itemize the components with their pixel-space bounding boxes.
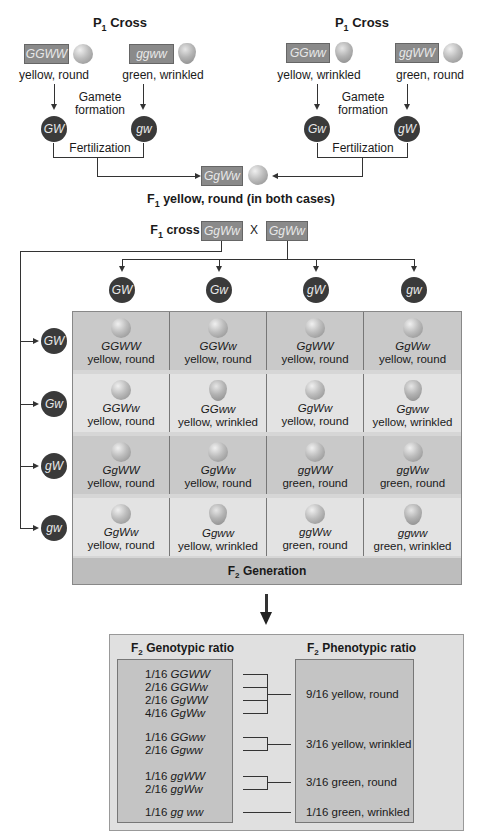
- phenotypic-ratio-title: F2 Phenotypic ratio: [307, 641, 416, 657]
- genotypic-ratio-item: 2/16 Ggww: [145, 744, 203, 757]
- p1-cross-right-title: P1 Cross: [322, 15, 402, 33]
- round-pea-icon: [111, 380, 131, 400]
- cell-phenotype: yellow, round: [379, 353, 446, 366]
- phenotypic-ratio-item: 9/16 yellow, round: [306, 688, 399, 701]
- parent-genotype-box: GGww: [286, 43, 330, 63]
- phenotypic-ratio-item: 3/16 yellow, wrinkled: [306, 738, 411, 751]
- p1-cross-left-title: P1 Cross: [80, 15, 160, 33]
- genotypic-ratio-item: 1/16 gg ww: [145, 806, 203, 819]
- round-pea-icon: [403, 318, 423, 338]
- punnett-cell: GGWwyellow, round: [170, 312, 267, 370]
- punnett-cell: ggWWgreen, round: [267, 436, 364, 494]
- fraction: 2/16: [145, 744, 167, 756]
- cell-phenotype: green, wrinkled: [374, 540, 452, 553]
- punnett-cell: GGWWyellow, round: [73, 312, 170, 370]
- gamete-circle: gW: [394, 116, 420, 142]
- title-p: P: [93, 15, 102, 30]
- punnett-row: GGWwyellow, round GGwwyellow, wrinkled G…: [73, 374, 461, 432]
- punnett-cell: ggwwgreen, wrinkled: [364, 498, 461, 556]
- parent-genotype-box: GGWW: [24, 44, 69, 64]
- connector-line: [20, 251, 21, 529]
- connector-line: [53, 157, 144, 158]
- cell-genotype: GgWW: [296, 340, 333, 353]
- gamete-circle: Gw: [304, 116, 330, 142]
- genotypic-ratio-item: 1/16 ggWW: [145, 770, 205, 783]
- punnett-cell: GgWwyellow, round: [364, 312, 461, 370]
- connector-line: [97, 157, 98, 176]
- arrow-right-icon: [33, 338, 39, 344]
- bracket-line: [267, 744, 291, 745]
- row-gamete-circle: GW: [41, 328, 67, 354]
- connector-line: [20, 528, 34, 529]
- wrinkled-pea-icon: [404, 380, 422, 401]
- arrow-right-icon: [33, 525, 39, 531]
- cell-phenotype: yellow, round: [281, 415, 348, 428]
- wrinkled-pea-icon: [335, 42, 353, 63]
- bracket-line: [243, 687, 267, 688]
- f1-cross-label: F1 cross: [150, 223, 200, 240]
- title-rest: Cross: [107, 15, 147, 30]
- punnett-cell: GgWwyellow, round: [170, 436, 267, 494]
- parent-phenotype: green, wrinkled: [120, 68, 206, 82]
- column-gamete-circle: gw: [401, 277, 427, 303]
- f1-cross-rest: cross: [163, 223, 200, 237]
- genotypic-ratio-item: 1/16 GGww: [145, 731, 205, 744]
- connector-line: [278, 176, 363, 177]
- connector-line: [97, 176, 197, 177]
- big-arrow-shaft: [265, 594, 268, 614]
- round-pea-icon: [73, 44, 93, 64]
- row-gamete-circle: Gw: [41, 391, 67, 417]
- connector-line: [407, 143, 408, 157]
- connector-line: [20, 251, 222, 252]
- cell-phenotype: yellow, round: [87, 477, 154, 490]
- fraction: 1/16: [145, 770, 167, 782]
- f1-cross-parent-box: GgWw: [266, 221, 308, 241]
- cell-genotype: ggWW: [298, 464, 333, 477]
- cell-genotype: Ggww: [397, 403, 429, 416]
- round-pea-icon: [111, 318, 131, 338]
- arrow-down-icon: [51, 104, 57, 110]
- cell-phenotype: yellow, wrinkled: [373, 416, 453, 429]
- cell-genotype: ggWw: [299, 526, 331, 539]
- genotype: ggWW: [171, 770, 206, 782]
- punnett-cell: ggWwgreen, round: [364, 436, 461, 494]
- fraction: 4/16: [145, 707, 167, 719]
- fraction: 1/16: [145, 731, 167, 743]
- punnett-cell: GgWWyellow, round: [73, 436, 170, 494]
- connector-line: [143, 143, 144, 157]
- round-pea-icon: [208, 442, 228, 462]
- cell-genotype: GgWw: [395, 340, 430, 353]
- punnett-cell: GgWWyellow, round: [267, 312, 364, 370]
- fraction: 1/16: [145, 668, 167, 680]
- bracket-line: [243, 750, 267, 751]
- connector-line: [54, 84, 55, 106]
- connector-line: [143, 84, 144, 106]
- footer-rest: Generation: [240, 564, 307, 578]
- cell-phenotype: green, round: [282, 539, 347, 552]
- phenotypic-ratio-item: 1/16 green, wrinkled: [306, 806, 410, 819]
- connector-line: [20, 404, 34, 405]
- gamete-formation-label: Gamete formation: [335, 91, 391, 117]
- arrow-right-icon: [33, 463, 39, 469]
- connector-line: [317, 84, 318, 106]
- arrow-left-icon: [272, 173, 278, 179]
- wrinkled-pea-icon: [404, 504, 422, 525]
- round-pea-icon: [305, 318, 325, 338]
- connector-line: [407, 84, 408, 106]
- round-pea-icon: [248, 165, 268, 185]
- cell-genotype: GgWw: [201, 464, 236, 477]
- wrinkled-pea-icon: [209, 504, 227, 525]
- bracket-line: [243, 789, 267, 790]
- fraction: 1/16: [145, 806, 167, 818]
- round-pea-icon: [305, 380, 325, 400]
- f1-label: F1 yellow, round (in both cases): [120, 192, 362, 209]
- bracket-line: [243, 776, 267, 777]
- cell-phenotype: yellow, round: [87, 415, 154, 428]
- row-gamete-circle: gW: [41, 453, 67, 479]
- row-gamete-circle: gw: [41, 515, 67, 541]
- bracket-line: [243, 674, 267, 675]
- connector-line: [362, 157, 363, 176]
- bracket-line: [267, 782, 291, 783]
- punnett-cell: Ggwwyellow, wrinkled: [364, 374, 461, 432]
- genotype: GGWW: [171, 668, 211, 680]
